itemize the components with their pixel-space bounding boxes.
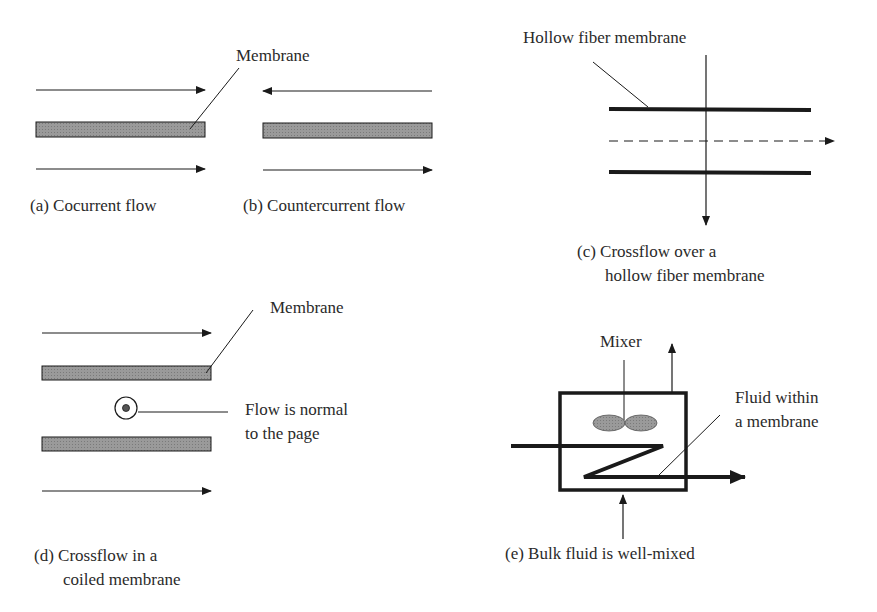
caption-e: (e) Bulk fluid is well-mixed: [505, 542, 695, 566]
hollow-fiber-leader-line: [593, 62, 648, 107]
mixer-label: Mixer: [600, 330, 642, 354]
panel-c-hollow-fiber: [593, 55, 834, 225]
caption-d-line2: coiled membrane: [63, 568, 181, 592]
normal-flow-label-line1: Flow is normal: [245, 398, 348, 422]
fluid-within-membrane-label-line1: Fluid within: [735, 386, 819, 410]
membrane-bar: [36, 122, 205, 137]
hollow-fiber-membrane-label: Hollow fiber membrane: [523, 26, 686, 50]
membrane-zigzag-path: [511, 446, 700, 477]
membrane-bar-bottom: [42, 437, 211, 451]
hollow-fiber-wall-top: [609, 109, 811, 110]
caption-c-line2: hollow fiber membrane: [605, 264, 765, 288]
membrane-label-a: Membrane: [236, 44, 310, 68]
membrane-bar: [263, 123, 432, 138]
membrane-label-d: Membrane: [270, 296, 344, 320]
caption-a: (a) Cocurrent flow: [30, 194, 157, 218]
panel-b-countercurrent: [263, 91, 432, 170]
panel-a-cocurrent: [36, 68, 239, 169]
normal-flow-label-line2: to the page: [245, 422, 320, 446]
flow-out-of-page-dot: [123, 405, 130, 412]
membrane-bar-top: [42, 366, 211, 380]
caption-c-line1: (c) Crossflow over a: [577, 240, 716, 264]
membrane-leader-line: [190, 68, 239, 129]
hollow-fiber-wall-bottom: [609, 172, 811, 173]
fluid-within-membrane-label-line2: a membrane: [735, 410, 819, 434]
mixer-blade-left: [593, 415, 625, 431]
mixer-blade-right: [625, 415, 657, 431]
caption-d-line1: (d) Crossflow in a: [34, 544, 157, 568]
caption-b: (b) Countercurrent flow: [243, 194, 405, 218]
membrane-leader-line: [206, 310, 253, 373]
panel-d-coiled: [42, 310, 253, 491]
membrane-flow-diagram: [0, 0, 877, 612]
panel-e-well-mixed: [511, 344, 745, 539]
fluid-leader-line: [658, 415, 720, 476]
